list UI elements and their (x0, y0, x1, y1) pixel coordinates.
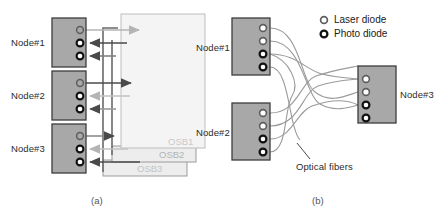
panel-a-node2-photo-diode-2 (77, 106, 84, 113)
panel-b-node1-label: Node#1 (196, 42, 230, 53)
panel-b-node3-photo-diode-1 (363, 102, 370, 109)
panel-b-node2-photo-diode-2 (260, 149, 267, 156)
laser-diode-icon (321, 17, 328, 24)
fiber-n1-2 (270, 41, 358, 109)
panel-a-node2-laser-diode (77, 80, 84, 87)
optical-fibers-label: Optical fibers (296, 161, 353, 172)
panel-a-node1-laser-diode (77, 27, 84, 34)
fiber-n2-4 (270, 54, 295, 152)
panel-b-node1-photo-diode-2 (260, 64, 267, 71)
panel-b-node3-label: Node#3 (400, 89, 434, 100)
photo-diode-icon (321, 31, 328, 38)
panel-b-node1-laser-diode-2 (260, 38, 267, 45)
osb1-label: OSB1 (168, 136, 193, 147)
panel-a-node2-label: Node#2 (11, 90, 45, 101)
panel-a-node3-label: Node#3 (11, 143, 45, 154)
fiber-n1-3 (270, 54, 358, 79)
panel-b-node1-photo-diode-1 (260, 51, 267, 58)
legend-icons (321, 17, 328, 38)
osb3-label: OSB3 (137, 163, 162, 174)
panel-a-node2-photo-diode-1 (77, 93, 84, 100)
optical-fibers-leader-line (297, 143, 310, 159)
panel-a-node1-photo-diode-1 (77, 40, 84, 47)
panel-a-node3-photo-diode-2 (77, 159, 84, 166)
fiber-n2-1 (270, 66, 358, 113)
panel-b-node2-laser-diode-2 (260, 123, 267, 130)
panel-a-switch-boxes (103, 14, 205, 176)
legend-photo-diode-label: Photo diode (334, 28, 387, 39)
panel-a-caption: (a) (91, 195, 103, 206)
panel-b-node3-laser-diode-2 (363, 89, 370, 96)
panel-b-diodes (260, 25, 370, 156)
panel-a-node1-label: Node#1 (11, 37, 45, 48)
panel-a-node3-laser-diode (77, 133, 84, 140)
panel-a-node1-photo-diode-2 (77, 53, 84, 60)
panel-b-node2-label: Node#2 (196, 127, 230, 138)
osb2-label: OSB2 (159, 149, 184, 160)
figure-optical-switch-architectures: Node#1 Node#2 Node#3 OSB1 OSB2 OSB3 Node… (0, 0, 437, 222)
panel-b-node3-laser-diode-1 (363, 76, 370, 83)
panel-b-nodes (232, 18, 396, 160)
panel-b-caption: (b) (312, 195, 324, 206)
panel-a-node3-photo-diode-1 (77, 146, 84, 153)
panel-b-node2-photo-diode-1 (260, 136, 267, 143)
panel-b-optical-fibers (270, 28, 358, 152)
panel-b-node2-laser-diode-1 (260, 110, 267, 117)
osb1-box (121, 14, 205, 148)
panel-b-node1-laser-diode-1 (260, 25, 267, 32)
panel-b-node3-photo-diode-2 (363, 115, 370, 122)
fiber-n2-2 (270, 79, 358, 126)
legend-laser-diode-label: Laser diode (334, 14, 386, 25)
